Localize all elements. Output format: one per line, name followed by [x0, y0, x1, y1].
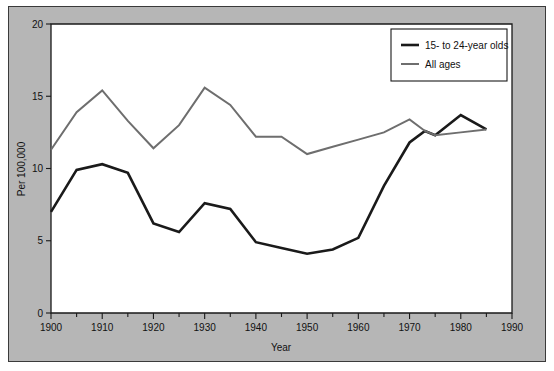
x-tick-label: 1940: [245, 322, 268, 333]
chart-legend: 15- to 24-year oldsAll ages: [391, 29, 508, 81]
y-tick-label: 0: [37, 308, 43, 319]
x-tick-label: 1910: [91, 322, 114, 333]
y-tick-label: 10: [32, 163, 44, 174]
x-tick-label: 1960: [347, 322, 370, 333]
y-tick-label: 5: [37, 235, 43, 246]
x-tick-label: 1900: [40, 322, 63, 333]
chart-figure: 05101520 1900191019201930194019501960197…: [0, 0, 554, 371]
x-tick-label: 1990: [501, 322, 524, 333]
x-tick-label: 1920: [142, 322, 165, 333]
x-axis-ticks: 1900191019201930194019501960197019801990: [40, 313, 524, 333]
legend-box: [391, 29, 507, 81]
legend-label-0: 15- to 24-year olds: [425, 40, 508, 51]
chart-panel: 05101520 1900191019201930194019501960197…: [8, 6, 546, 362]
y-tick-label: 15: [32, 91, 44, 102]
y-tick-label: 20: [32, 19, 44, 30]
legend-label-1: All ages: [425, 59, 461, 70]
line-chart: 05101520 1900191019201930194019501960197…: [9, 7, 545, 361]
y-axis-title: Per 100,000: [16, 141, 27, 196]
x-tick-label: 1980: [450, 322, 473, 333]
x-axis-title: Year: [271, 342, 292, 353]
x-tick-label: 1950: [296, 322, 319, 333]
x-tick-label: 1970: [398, 322, 421, 333]
y-axis-ticks: 05101520: [32, 19, 51, 319]
x-tick-label: 1930: [194, 322, 217, 333]
